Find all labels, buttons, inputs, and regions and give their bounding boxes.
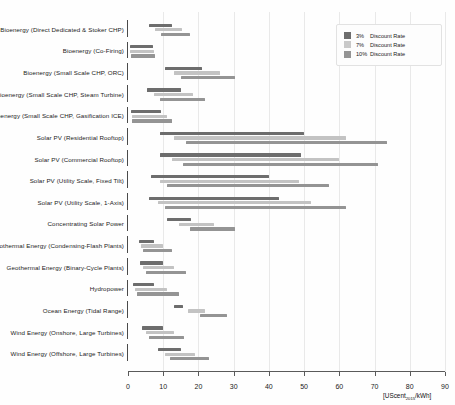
bar-r3	[174, 305, 183, 308]
x-tick-label: 0	[126, 383, 130, 390]
bar-r10	[183, 163, 378, 166]
x-axis-title-tail: /kWh]	[415, 392, 431, 399]
x-tick-mark	[163, 372, 164, 376]
category-label: Solar PV (Commercial Rooftop)	[34, 155, 124, 162]
category-label: Hydropower	[90, 285, 124, 292]
legend-item-3: 3% Discount Rate	[344, 32, 435, 39]
bar-r7	[146, 331, 174, 334]
bar-r7	[154, 93, 193, 96]
category-label: Bioenergy (Co-Firing)	[63, 47, 124, 54]
x-axis-title-main: [UScent	[383, 392, 406, 399]
legend: 3% Discount Rate 7% Discount Rate 10% Di…	[336, 24, 442, 66]
x-tick-mark	[339, 372, 340, 376]
bar-r3	[140, 261, 163, 264]
category-axis-segment	[127, 85, 128, 102]
legend-percent-3: 3%	[356, 33, 370, 39]
bar-r3	[142, 326, 163, 329]
bar-r10	[167, 184, 329, 187]
legend-percent-7: 7%	[356, 42, 370, 48]
category-axis-segment	[127, 20, 128, 37]
legend-swatch-7-icon	[344, 41, 351, 48]
bar-r3	[149, 24, 172, 27]
bar-r7	[130, 50, 154, 53]
x-axis-line	[128, 371, 445, 372]
legend-swatch-3-icon	[344, 32, 351, 39]
gridline	[269, 12, 270, 372]
category-axis-segment	[127, 171, 128, 188]
x-tick-mark	[128, 372, 129, 376]
category-axis-segment	[127, 193, 128, 210]
x-tick-label: 20	[195, 383, 203, 390]
bar-r10	[160, 98, 206, 101]
bar-r3	[160, 153, 301, 156]
x-tick-label: 80	[406, 383, 414, 390]
x-tick-mark	[445, 372, 446, 376]
bar-r7	[143, 266, 174, 269]
bar-r10	[149, 336, 184, 339]
bar-r10	[190, 227, 236, 230]
gridline	[410, 12, 411, 372]
category-label: Bioenergy (Small Scale CHP, Steam Turbin…	[0, 90, 124, 97]
category-label: Bioenergy (Direct Dedicated & Stoker CHP…	[0, 25, 124, 32]
x-tick-label: 60	[335, 383, 343, 390]
bar-r10	[200, 314, 226, 317]
gridline	[445, 12, 446, 372]
category-label: Geothermal Energy (Condensing-Flash Plan…	[0, 242, 124, 249]
legend-item-10: 10% Discount Rate	[344, 51, 435, 58]
legend-label-3: Discount Rate	[370, 33, 405, 39]
bar-r3	[133, 283, 154, 286]
bar-r10	[161, 33, 190, 36]
x-axis-title-sub: 2015	[406, 396, 415, 401]
bar-r3	[130, 45, 153, 48]
x-axis-title: [UScent2015/kWh]	[383, 392, 431, 401]
bar-r3	[165, 67, 202, 70]
gridline	[375, 12, 376, 372]
gridline	[234, 12, 235, 372]
category-label: Solar PV (Utility Scale, 1-Axis)	[38, 198, 124, 205]
category-axis-segment	[127, 42, 128, 59]
gridline	[339, 12, 340, 372]
bar-r10	[132, 119, 172, 122]
x-tick-label: 30	[230, 383, 238, 390]
lcoe-range-chart: 0102030405060708090 Bioenergy (Direct De…	[0, 0, 455, 405]
category-axis-segment	[127, 344, 128, 361]
category-axis-segment	[127, 128, 128, 145]
gridline	[163, 12, 164, 372]
x-tick-label: 50	[300, 383, 308, 390]
bar-r3	[160, 132, 304, 135]
bar-r7	[135, 288, 167, 291]
bar-r7	[179, 223, 214, 226]
bar-r3	[167, 218, 192, 221]
x-tick-mark	[304, 372, 305, 376]
category-axis-segment	[127, 258, 128, 275]
bar-r7	[165, 353, 195, 356]
x-tick-mark	[198, 372, 199, 376]
bar-r3	[151, 175, 269, 178]
bar-r3	[139, 240, 155, 243]
bar-r7	[141, 244, 163, 247]
bar-r7	[174, 136, 347, 139]
bar-r7	[160, 180, 299, 183]
category-label: Solar PV (Utility Scale, Fixed Tilt)	[30, 177, 124, 184]
bar-r10	[186, 141, 387, 144]
bar-r7	[172, 158, 339, 161]
category-label: Bioenergy (Small Scale CHP, ORC)	[23, 69, 124, 76]
bar-r10	[170, 357, 209, 360]
category-axis-segment	[127, 63, 128, 80]
legend-swatch-10-icon	[344, 51, 351, 58]
gridline	[304, 12, 305, 372]
category-axis-segment	[127, 280, 128, 297]
bar-r7	[132, 115, 167, 118]
x-tick-label: 40	[265, 383, 273, 390]
bar-r10	[131, 54, 156, 57]
x-tick-mark	[269, 372, 270, 376]
x-tick-mark	[375, 372, 376, 376]
category-label: Wind Energy (Offshore, Large Turbines)	[11, 350, 124, 357]
category-label: Concentrating Solar Power	[48, 220, 124, 227]
bar-r10	[137, 292, 179, 295]
bar-r3	[149, 197, 279, 200]
category-axis-segment	[127, 236, 128, 253]
bar-r10	[143, 249, 172, 252]
bar-r7	[188, 309, 206, 312]
bar-r3	[158, 348, 181, 351]
